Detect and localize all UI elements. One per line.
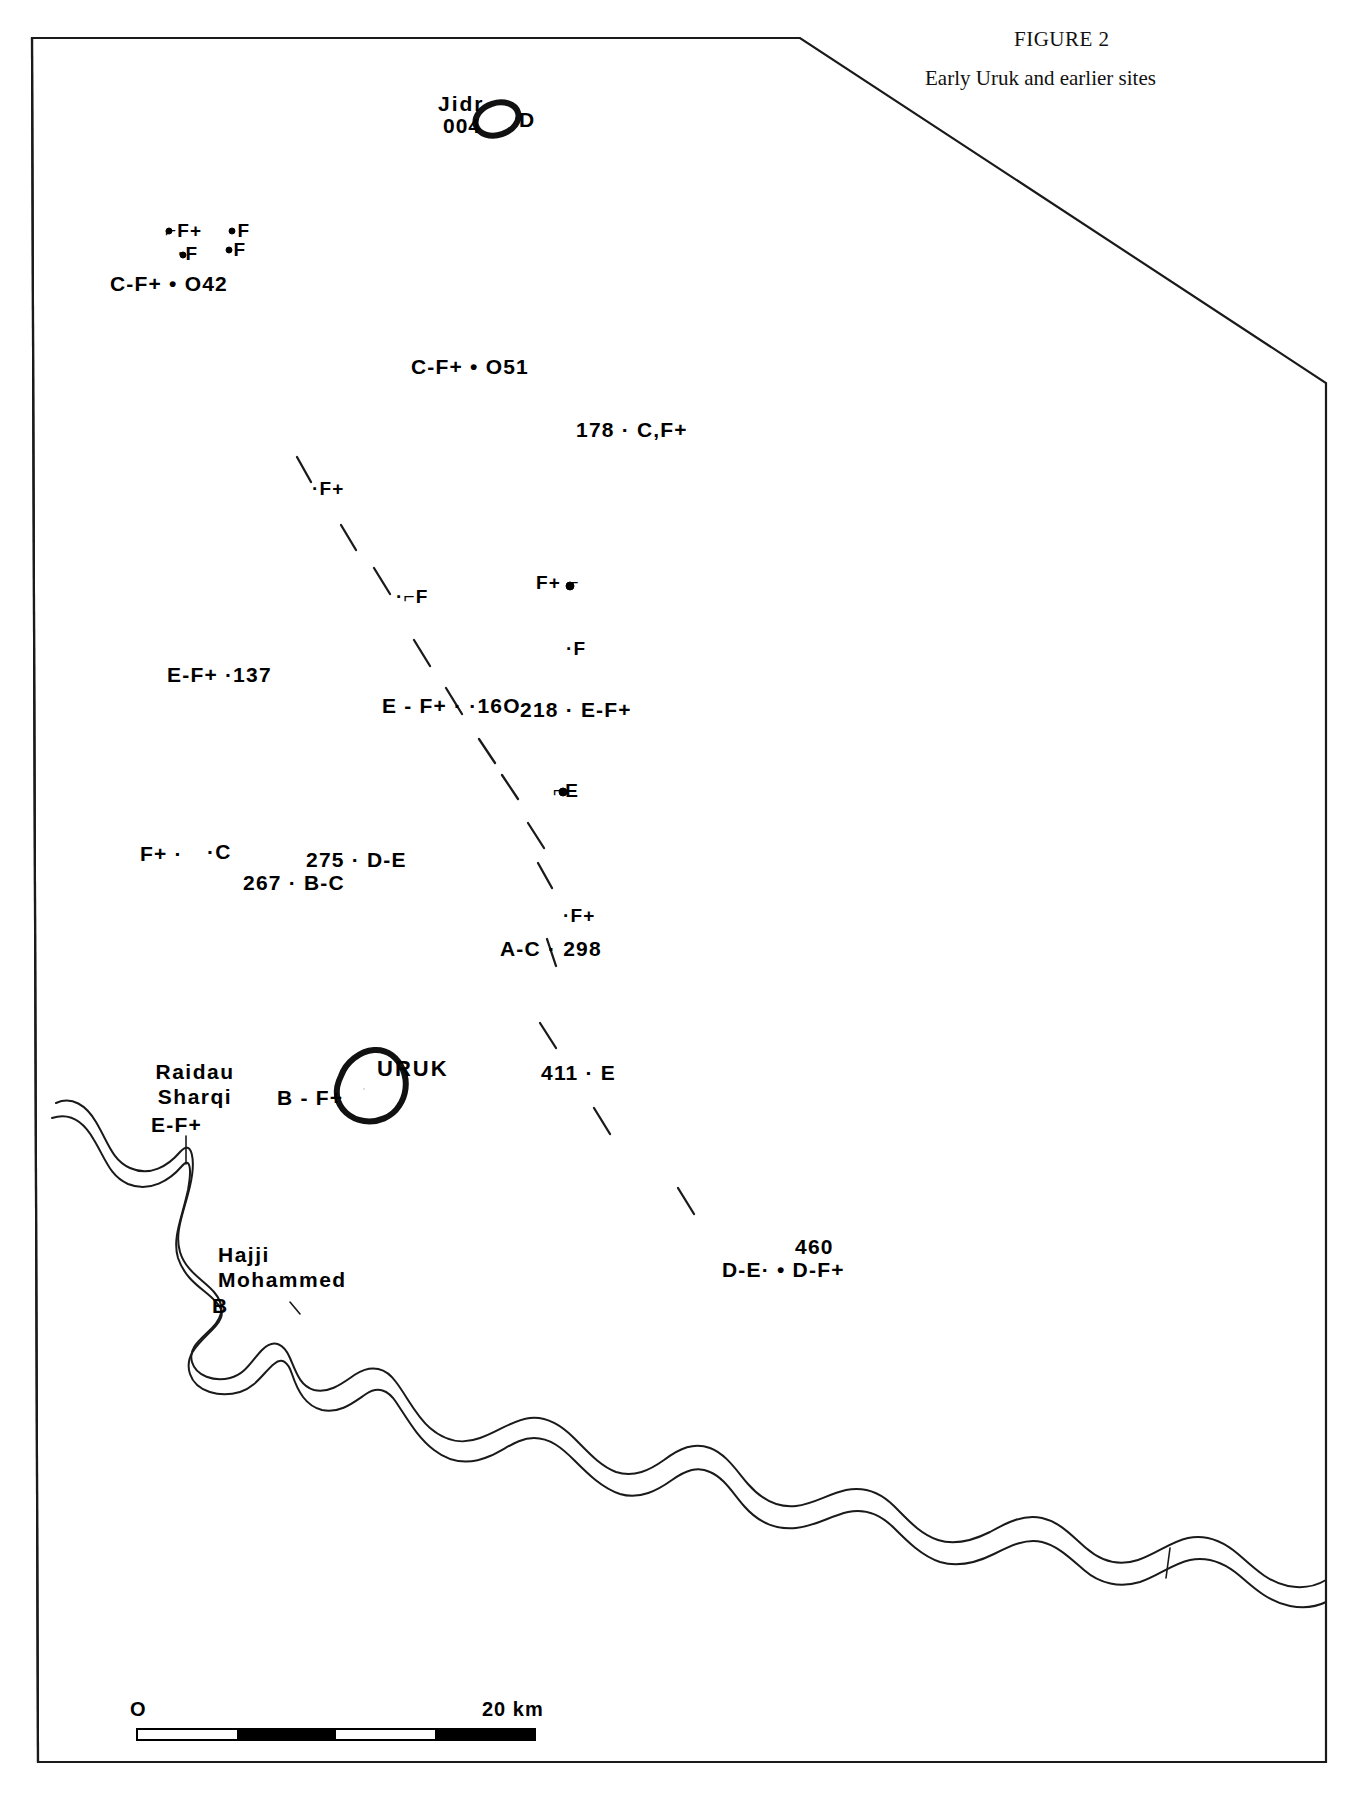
site-label-460-number: 460 <box>795 1235 834 1259</box>
site-label-hajji-period: B <box>212 1294 228 1318</box>
scale-seg-3 <box>336 1730 435 1739</box>
site-label-f-plus-east: F+ ⌐ <box>536 572 580 594</box>
site-label-298: A-C · 298 <box>500 937 602 961</box>
site-label-uruk-name: URUK <box>377 1056 449 1082</box>
site-label-jidr-period: D <box>519 108 535 132</box>
site-label-137: E-F+ ·137 <box>167 663 272 687</box>
hajji-lines: Hajji Mohammed <box>218 1243 347 1291</box>
scale-seg-2 <box>237 1730 336 1739</box>
site-label-uruk-period: B - F+ <box>277 1086 343 1110</box>
site-label-275: 275 · D-E <box>306 848 407 872</box>
site-label-f-cluster-3: ·F <box>178 243 198 265</box>
site-label-jidr-name: Jidr <box>438 92 485 116</box>
site-label-raidau-name: Raidau Sharqi <box>140 1060 250 1110</box>
site-label-c: ·C <box>207 840 232 864</box>
site-label-f-cluster-4: ·F <box>226 239 246 261</box>
scale-seg-1 <box>138 1730 237 1739</box>
euphrates-river <box>52 1101 1326 1608</box>
site-label-f-west: ·F+ <box>312 478 345 500</box>
map-figure: FIGURE 2 Early Uruk and earlier sites <box>0 0 1357 1809</box>
scale-bar-group: O 20 km <box>130 1700 580 1760</box>
scale-zero-label: O <box>130 1698 146 1721</box>
site-label-218: 218 · E-F+ <box>520 698 632 722</box>
site-label-f-mid: ·⌐F <box>396 586 429 608</box>
site-label-411: 411 · E <box>541 1061 616 1085</box>
site-label-raidau-period: E-F+ <box>151 1113 202 1137</box>
scale-seg-4 <box>435 1730 534 1739</box>
site-label-178: 178 · C,F+ <box>576 418 688 442</box>
site-label-460: D-E· • D-F+ <box>722 1258 845 1282</box>
site-label-e: ⌐E <box>553 780 579 802</box>
map-border <box>32 38 1326 1762</box>
site-label-f-plus-lower: ·F+ <box>563 905 596 927</box>
site-label-jidr-number: 004 <box>443 114 481 138</box>
scale-bar <box>136 1728 536 1741</box>
site-label-f-cluster-1: ⌐F+ <box>165 220 202 242</box>
raidau-line-1: Raidau Sharqi <box>155 1060 234 1108</box>
ancient-watercourse <box>297 457 694 1214</box>
site-label-hajji-name: Hajji Mohammed <box>218 1243 368 1293</box>
site-label-051: C-F+ • O51 <box>411 355 529 379</box>
site-label-042: C-F+ • O42 <box>110 272 228 296</box>
scale-max-label: 20 km <box>482 1698 544 1721</box>
site-label-f-east: ·F <box>566 638 586 660</box>
site-label-160: E - F+ · ·16O <box>382 694 521 718</box>
site-label-f-plus-west: F+ · <box>140 842 183 866</box>
site-label-267: 267 · B-C <box>243 871 345 895</box>
